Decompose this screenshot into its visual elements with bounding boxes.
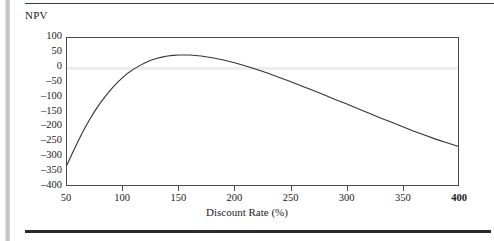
- y-axis-label: –300: [18, 149, 62, 160]
- y-axis-label: –200: [18, 119, 62, 130]
- x-axis-label: 100: [102, 192, 142, 203]
- npv-discount-rate-chart: NPV 100500–50–100–150–200–250–300–350–40…: [0, 0, 494, 241]
- x-axis-tick: [234, 186, 235, 191]
- y-axis-label: –350: [18, 164, 62, 175]
- y-axis-label: –150: [18, 105, 62, 116]
- y-axis-label: 50: [18, 45, 62, 56]
- x-axis-label: 150: [158, 192, 198, 203]
- x-axis-tick: [178, 186, 179, 191]
- y-axis-label: –100: [18, 90, 62, 101]
- npv-curve: [67, 55, 458, 165]
- x-axis-tick: [291, 186, 292, 191]
- npv-curve-svg: [67, 38, 458, 185]
- x-axis-title: Discount Rate (%): [0, 206, 494, 218]
- y-axis-label: 100: [18, 30, 62, 41]
- x-axis-label: 50: [46, 192, 86, 203]
- plot-area: [66, 37, 459, 186]
- x-axis-tick: [403, 186, 404, 191]
- y-axis-label: –400: [18, 179, 62, 190]
- x-axis-label: 200: [214, 192, 254, 203]
- y-axis-label: 0: [18, 60, 62, 71]
- x-axis-label: 350: [383, 192, 423, 203]
- y-axis-title: NPV: [25, 9, 48, 21]
- y-axis-label: –250: [18, 134, 62, 145]
- x-axis-label: 300: [327, 192, 367, 203]
- x-axis-tick: [122, 186, 123, 191]
- x-axis-tick: [347, 186, 348, 191]
- x-axis-label: 250: [271, 192, 311, 203]
- y-axis-label: –50: [18, 75, 62, 86]
- x-axis-label: 400: [439, 192, 479, 203]
